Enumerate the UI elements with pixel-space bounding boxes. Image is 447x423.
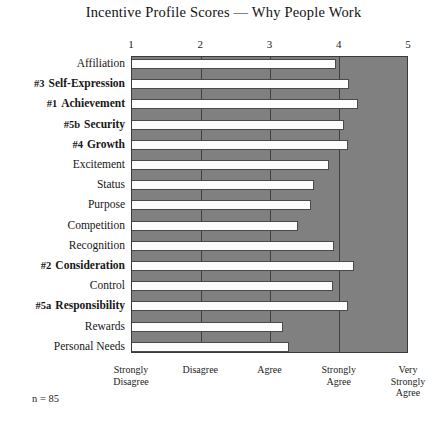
category-name: Excitement <box>73 158 125 170</box>
bar <box>131 301 348 311</box>
bar <box>131 221 298 231</box>
bar-row <box>132 120 408 130</box>
incentive-profile-chart: Incentive Profile Scores — Why People Wo… <box>0 0 447 423</box>
bar <box>131 200 311 210</box>
scale-label: Disagree <box>182 364 218 376</box>
category-name: Self-Expression <box>49 77 125 89</box>
bar <box>131 160 329 170</box>
category-label: Affiliation <box>77 57 125 69</box>
bar <box>131 342 289 352</box>
category-name: Affiliation <box>77 57 125 69</box>
bar <box>131 79 349 89</box>
bar <box>131 261 354 271</box>
bar <box>131 322 283 332</box>
rank-badge: #5a <box>36 300 52 311</box>
scale-label: Very Strongly Agree <box>391 364 425 399</box>
axis-tick-label: 4 <box>336 38 342 50</box>
scale-label: Strongly Disagree <box>113 364 149 387</box>
category-name: Rewards <box>85 320 125 332</box>
category-name: Responsibility <box>55 299 125 311</box>
bar-row <box>132 59 408 69</box>
category-label: Excitement <box>73 158 125 170</box>
category-name: Purpose <box>88 198 125 210</box>
rank-badge: #5b <box>64 119 80 130</box>
scale-labels: Strongly DisagreeDisagreeAgreeStrongly A… <box>0 364 447 410</box>
category-label: #4Growth <box>72 138 125 151</box>
category-label: Competition <box>68 219 126 231</box>
bar <box>131 140 348 150</box>
category-name: Control <box>90 279 125 291</box>
category-name: Security <box>84 118 125 130</box>
sample-size-note: n = 85 <box>32 393 59 404</box>
top-axis: 12345 <box>131 38 408 54</box>
bar <box>131 59 336 69</box>
bar-row <box>132 261 408 271</box>
bar-row <box>132 140 408 150</box>
bar <box>131 99 358 109</box>
bar-row <box>132 200 408 210</box>
category-name: Personal Needs <box>54 340 125 352</box>
category-name: Competition <box>68 219 126 231</box>
axis-tick-label: 2 <box>198 38 204 50</box>
category-label: #5bSecurity <box>64 118 125 131</box>
bar-row <box>132 221 408 231</box>
scale-label: Agree <box>257 364 281 376</box>
bar-row <box>132 322 408 332</box>
category-label: Status <box>97 178 125 190</box>
category-label: Purpose <box>88 198 125 210</box>
rank-badge: #2 <box>41 260 52 271</box>
rank-badge: #3 <box>34 78 45 89</box>
category-name: Achievement <box>61 97 125 109</box>
category-label: Recognition <box>69 239 125 251</box>
bar <box>131 120 344 130</box>
bar <box>131 180 314 190</box>
category-axis-labels: Affiliation#3Self-Expression#1Achievemen… <box>0 56 128 361</box>
axis-tick-label: 1 <box>128 38 134 50</box>
category-name: Growth <box>87 138 125 150</box>
category-name: Recognition <box>69 239 125 251</box>
bar-row <box>132 241 408 251</box>
category-label: #2Consideration <box>41 259 125 272</box>
category-label: #5aResponsibility <box>36 299 125 312</box>
plot-area <box>131 56 408 353</box>
bar <box>131 241 334 251</box>
category-label: #3Self-Expression <box>34 77 125 90</box>
category-label: #1Achievement <box>47 97 125 110</box>
category-label: Control <box>90 279 125 291</box>
bar-row <box>132 301 408 311</box>
bar-row <box>132 281 408 291</box>
chart-title: Incentive Profile Scores — Why People Wo… <box>0 4 447 21</box>
bar-row <box>132 180 408 190</box>
category-label: Rewards <box>85 320 125 332</box>
bar <box>131 281 333 291</box>
category-name: Consideration <box>55 259 125 271</box>
rank-badge: #1 <box>47 98 58 109</box>
axis-tick-label: 5 <box>405 38 411 50</box>
rank-badge: #4 <box>72 139 83 150</box>
axis-tick-label: 3 <box>267 38 273 50</box>
category-label: Personal Needs <box>54 340 125 352</box>
bar-row <box>132 79 408 89</box>
bar-row <box>132 99 408 109</box>
scale-label: Strongly Agree <box>322 364 356 387</box>
category-name: Status <box>97 178 125 190</box>
bar-row <box>132 342 408 352</box>
bar-row <box>132 160 408 170</box>
